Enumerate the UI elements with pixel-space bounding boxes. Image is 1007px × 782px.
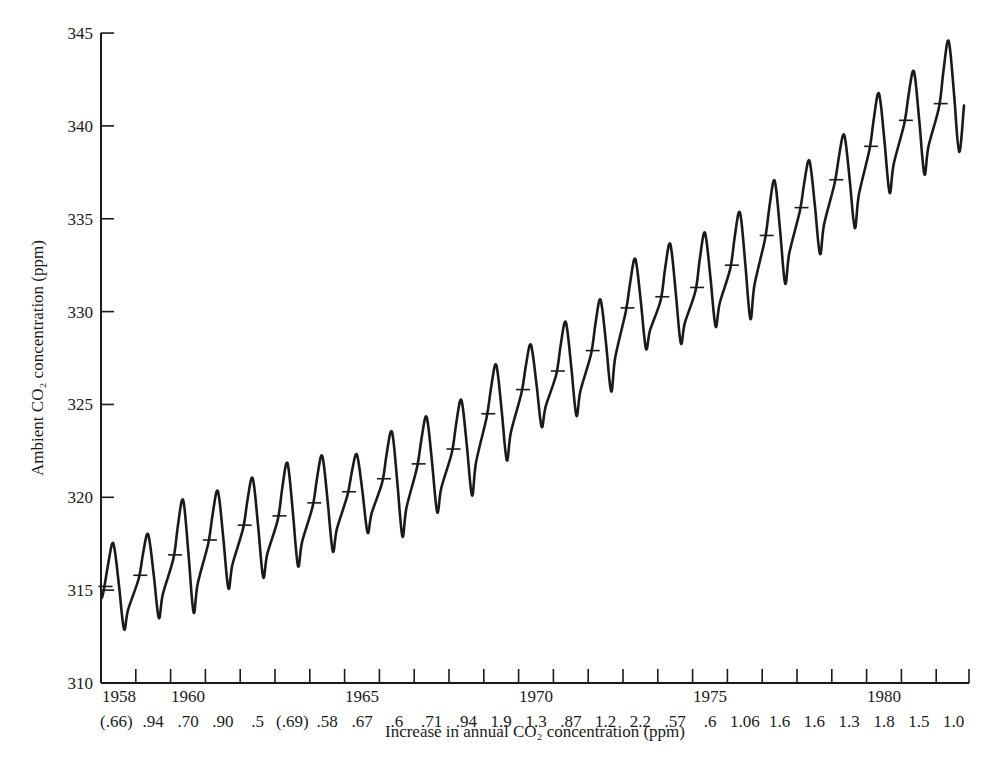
x-tick-label: 1970 bbox=[519, 687, 553, 706]
y-axis-title: Ambient CO₂ concentration (ppm) bbox=[28, 240, 47, 476]
annual-increase-label: .67 bbox=[351, 712, 373, 731]
y-axis: 310315320325330335340345 bbox=[68, 24, 115, 693]
y-tick-label: 335 bbox=[68, 210, 94, 229]
annual-increase-label: 1.8 bbox=[873, 712, 894, 731]
x-tick-label: 1960 bbox=[171, 687, 205, 706]
annual-increase-label: 1.6 bbox=[804, 712, 825, 731]
x-tick-label: 1965 bbox=[345, 687, 379, 706]
y-tick-label: 340 bbox=[68, 117, 94, 136]
annual-increase-label: 1.06 bbox=[730, 712, 760, 731]
annual-increase-label: (.69) bbox=[276, 712, 309, 731]
plot-area bbox=[98, 41, 964, 630]
co2-concentration-curve bbox=[102, 41, 964, 630]
annual-increase-label: 1.3 bbox=[839, 712, 860, 731]
annual-increase-label: .58 bbox=[317, 712, 338, 731]
y-tick-label: 325 bbox=[68, 395, 94, 414]
y-tick-label: 345 bbox=[68, 24, 94, 43]
x-axis-title: Increase in annual CO₂ concentration (pp… bbox=[385, 722, 685, 741]
y-tick-label: 330 bbox=[68, 303, 94, 322]
annual-mean-markers bbox=[98, 104, 947, 587]
y-tick-label: 310 bbox=[68, 674, 94, 693]
annual-increase-label: 1.6 bbox=[769, 712, 790, 731]
annual-increase-label: .6 bbox=[704, 712, 717, 731]
annual-increase-label: .70 bbox=[177, 712, 198, 731]
annual-increase-label: .90 bbox=[212, 712, 233, 731]
y-tick-label: 320 bbox=[68, 488, 94, 507]
annual-increase-label: (.66) bbox=[100, 712, 133, 731]
y-tick-label: 315 bbox=[68, 581, 94, 600]
annual-increase-label: 1.0 bbox=[943, 712, 964, 731]
annual-increase-label: .94 bbox=[143, 712, 165, 731]
x-tick-label: 1975 bbox=[693, 687, 727, 706]
annual-increase-label: .5 bbox=[251, 712, 264, 731]
co2-chart: 310315320325330335340345 195819601965197… bbox=[0, 0, 1007, 782]
x-tick-label: 1958 bbox=[102, 687, 136, 706]
annual-increase-label: 1.5 bbox=[908, 712, 929, 731]
x-axis: 195819601965197019751980 bbox=[101, 669, 969, 706]
x-tick-label: 1980 bbox=[867, 687, 901, 706]
